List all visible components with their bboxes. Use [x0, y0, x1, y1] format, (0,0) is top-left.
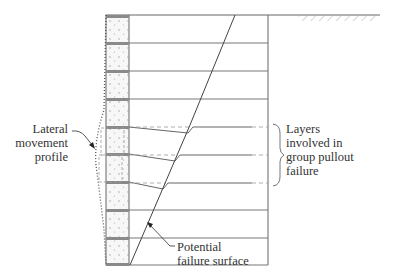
ground-hatch-icon [298, 16, 378, 21]
label-line: Layers [286, 122, 354, 136]
failure-surface-line [130, 15, 235, 265]
brace-icon [273, 124, 284, 186]
label-line: failure [286, 164, 354, 178]
ground-surface [129, 15, 380, 21]
label-line: group pullout [286, 150, 354, 164]
label-line: failure surface [177, 254, 249, 268]
reinforcement-layers [129, 43, 268, 265]
group-pullout-label: Layers involved in group pullout failure [286, 122, 354, 178]
label-line: movement [0, 136, 68, 150]
lateral-leader-arrow-icon [72, 131, 95, 149]
label-line: Potential [177, 240, 249, 254]
failure-surface-label: Potential failure surface [177, 240, 249, 268]
lateral-movement-label: Lateral movement profile [0, 122, 68, 164]
deflected-reinforcement-layers [129, 127, 268, 189]
label-line: involved in [286, 136, 354, 150]
label-line: profile [0, 150, 68, 164]
label-line: Lateral [0, 122, 68, 136]
failure-leader-arrow-icon [147, 222, 175, 246]
facing-panels [106, 15, 129, 266]
